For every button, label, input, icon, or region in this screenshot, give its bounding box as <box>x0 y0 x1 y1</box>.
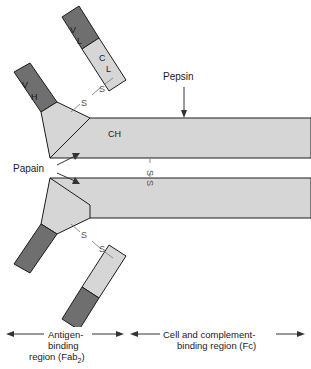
label-hinge-ss-2: S <box>145 180 155 186</box>
label-cl-l: L <box>106 64 111 74</box>
label-vl-l: L <box>77 36 82 46</box>
label-hinge-ss-1: S <box>145 170 155 176</box>
label-ss-upper-1: S <box>81 98 87 108</box>
label-ch-upper: CH <box>108 129 121 139</box>
label-pepsin: Pepsin <box>163 71 194 82</box>
caption-left-line3-pre: region (Fab <box>29 351 78 362</box>
label-ss-lower-1: S <box>81 230 87 240</box>
label-ss-upper-2: S <box>99 84 105 94</box>
caption-left-line2: binding <box>48 340 79 351</box>
caption-left-line1: Antigen- <box>48 329 83 340</box>
antibody-diagram-svg: V L C L V H CH S S S S <box>0 0 311 369</box>
label-cl-c: C <box>99 53 106 63</box>
label-vh-h: H <box>31 92 38 102</box>
fc-stem-upper <box>50 118 311 158</box>
caption-left-line3-post: ) <box>82 351 85 362</box>
antibody-structure-figure: V L C L V H CH S S S S <box>0 0 311 369</box>
label-ss-lower-2: S <box>99 244 105 254</box>
label-papain: Papain <box>13 163 44 174</box>
caption-right-line2: binding region (Fc) <box>177 340 256 351</box>
label-vh-v: V <box>22 80 28 90</box>
caption-right-line1: Cell and complement- <box>163 329 255 340</box>
label-vl-v: V <box>70 25 76 35</box>
